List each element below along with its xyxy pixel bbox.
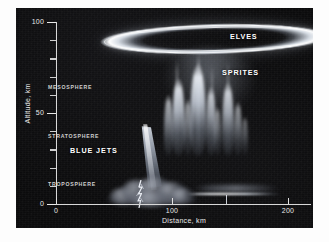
thundercloud	[108, 176, 194, 206]
y-tick-label-0: 0	[18, 200, 44, 207]
event-label-sprites: SPRITES	[222, 68, 259, 77]
x-axis-line	[56, 204, 311, 205]
y-tick-60	[50, 95, 56, 96]
y-tick-30	[50, 149, 56, 150]
y-tick-90	[50, 40, 56, 41]
anvil-streak-core	[186, 193, 282, 195]
x-tick-label-0: 0	[41, 207, 71, 214]
y-axis-line	[56, 22, 57, 205]
plot-panel: MESOSPHERE STRATOSPHERE TROPOSPHERE ELVE…	[16, 8, 313, 228]
y-tick-label-100: 100	[18, 18, 44, 25]
x-tick-200	[288, 198, 289, 204]
y-tick-40	[50, 131, 56, 132]
anvil-streak-cloud	[186, 184, 282, 202]
sprites-group	[156, 48, 264, 156]
y-axis-title: Altitude, km	[24, 74, 31, 134]
x-axis-title: Distance, km	[134, 217, 234, 224]
y-tick-50	[47, 113, 56, 114]
x-tick-100	[172, 198, 173, 204]
y-tick-0	[47, 204, 56, 205]
event-label-elves: ELVES	[230, 32, 258, 41]
anvil-streak-bolt	[226, 195, 227, 204]
y-tick-70	[50, 77, 56, 78]
y-tick-10	[50, 186, 56, 187]
x-tick-label-200: 200	[273, 207, 303, 214]
y-tick-label-50: 50	[18, 109, 44, 116]
tle-atmosphere-diagram: MESOSPHERE STRATOSPHERE TROPOSPHERE ELVE…	[0, 0, 329, 242]
region-label-mesosphere: MESOSPHERE	[48, 84, 92, 90]
y-tick-80	[50, 58, 56, 59]
anvil-streak-top	[192, 185, 280, 192]
y-tick-20	[50, 168, 56, 169]
y-tick-100	[47, 22, 56, 23]
event-label-blue-jets: BLUE JETS	[70, 146, 118, 155]
x-tick-label-100: 100	[157, 207, 187, 214]
x-tick-0	[56, 198, 57, 204]
